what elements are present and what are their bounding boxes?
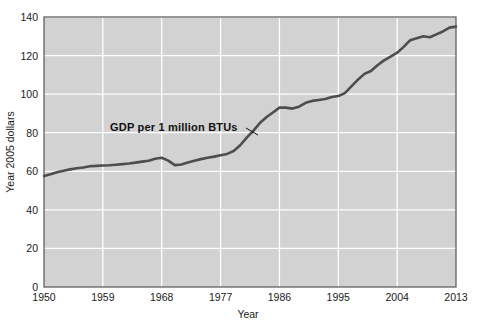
x-tick-label: 1977: [209, 291, 233, 303]
y-tick-label: 120: [20, 50, 38, 62]
chart-figure: GDP per 1 million BTUs 02040608010012014…: [0, 0, 481, 329]
plot-background: [44, 17, 456, 287]
x-tick-label: 1986: [268, 291, 292, 303]
y-tick-label: 20: [26, 242, 38, 254]
y-tick-label: 40: [26, 204, 38, 216]
x-tick-label: 2004: [385, 291, 409, 303]
x-tick-label: 1950: [32, 291, 56, 303]
x-tick-label: 1959: [91, 291, 115, 303]
y-axis-title: Year 2005 dollars: [4, 111, 16, 192]
x-axis-tick-labels: 19501959196819771986199520042013: [32, 291, 468, 303]
y-tick-label: 80: [26, 127, 38, 139]
x-tick-label: 2013: [444, 291, 468, 303]
y-tick-label: 100: [20, 88, 38, 100]
x-tick-label: 1968: [150, 291, 174, 303]
gdp-per-btu-line-chart: GDP per 1 million BTUs 02040608010012014…: [0, 0, 481, 329]
annotation-gdp-per-1-million-btus: GDP per 1 million BTUs: [110, 121, 238, 133]
x-tick-label: 1995: [327, 291, 351, 303]
y-tick-label: 60: [26, 165, 38, 177]
y-axis-tick-labels: 020406080100120140: [20, 11, 38, 293]
x-axis-title: Year: [237, 308, 259, 320]
y-tick-label: 140: [20, 11, 38, 23]
